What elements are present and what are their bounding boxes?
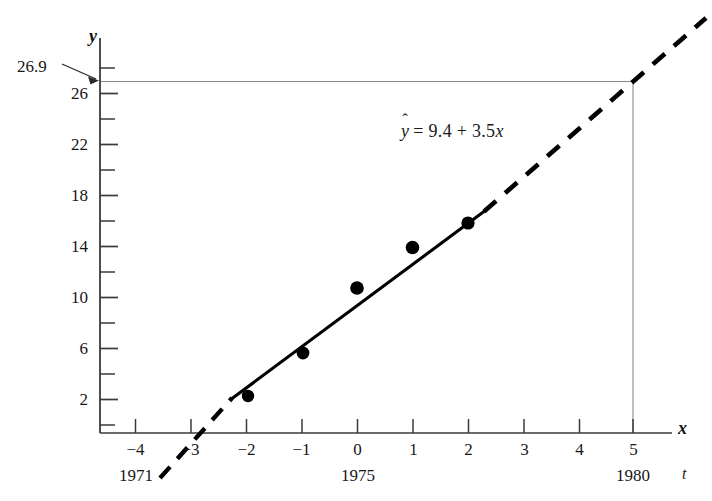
- x-tick-label-neg4: −4: [113, 441, 158, 458]
- x-tick-label-0: 0: [335, 441, 380, 458]
- x-axis-title: x: [678, 419, 687, 437]
- prediction-callout-label: 26.9: [17, 58, 47, 75]
- y-tick-label-2: 2: [44, 391, 88, 408]
- x-tick-label-neg2: −2: [224, 441, 269, 458]
- equation-x-variable: x: [495, 121, 503, 141]
- x-tick-label-4: 4: [557, 441, 602, 458]
- year-tick-label-1980: 1980: [597, 467, 669, 484]
- y-tick-label-6: 6: [44, 340, 88, 357]
- x-axis-ticks: [136, 419, 634, 433]
- regression-line-dashed-high: [484, 18, 706, 212]
- equation-hat-variable: ˆy: [401, 122, 409, 140]
- y-axis-major-ticks: [100, 94, 118, 400]
- data-point: [297, 347, 310, 360]
- regression-line-dashed-low: [160, 398, 232, 478]
- y-axis-title: y: [89, 27, 97, 45]
- x-tick-label-5: 5: [611, 441, 656, 458]
- t-axis-title: t: [682, 466, 686, 482]
- regression-equation-label: ˆy= 9.4 + 3.5x: [401, 122, 504, 140]
- y-tick-label-26: 26: [44, 85, 88, 102]
- prediction-guide-lines: [100, 82, 633, 434]
- data-point: [406, 241, 420, 255]
- y-tick-label-10: 10: [44, 289, 88, 306]
- circumflex-accent-icon: ˆ: [401, 111, 409, 128]
- x-tick-label-1: 1: [391, 441, 436, 458]
- data-point: [461, 216, 474, 229]
- regression-chart-figure: 26 22 18 14 10 6 2 −4 −3 −2 −1 0 1 2 3 4…: [0, 0, 712, 501]
- year-tick-label-1971: 1971: [100, 467, 172, 484]
- y-tick-label-18: 18: [44, 187, 88, 204]
- callout-arrow: [62, 64, 99, 85]
- axes: [100, 38, 672, 433]
- year-tick-label-1975: 1975: [322, 467, 394, 484]
- y-tick-label-22: 22: [44, 136, 88, 153]
- data-point: [350, 281, 364, 295]
- y-tick-label-14: 14: [44, 238, 88, 255]
- x-tick-label-2: 2: [446, 441, 491, 458]
- equation-body: = 9.4 + 3.5: [413, 121, 495, 141]
- x-tick-label-neg1: −1: [279, 441, 324, 458]
- x-tick-label-3: 3: [502, 441, 547, 458]
- x-tick-label-neg3: −3: [168, 441, 213, 458]
- chart-canvas: [0, 0, 712, 501]
- regression-line-solid: [230, 210, 486, 400]
- data-point: [242, 390, 254, 402]
